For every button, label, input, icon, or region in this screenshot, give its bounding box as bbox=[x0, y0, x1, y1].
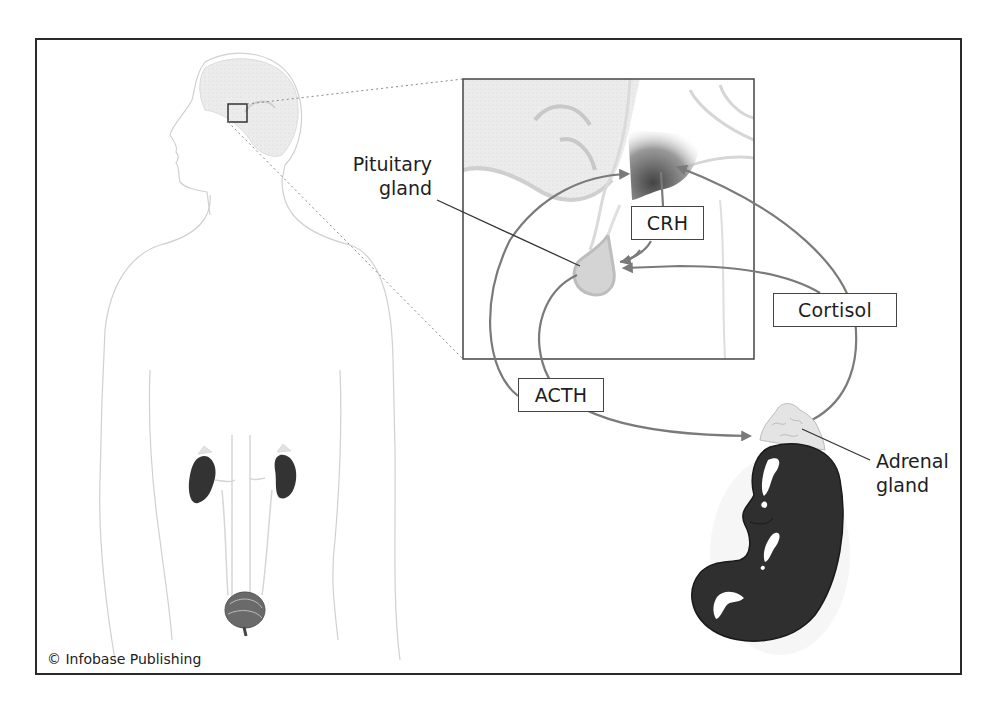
copyright-notice: © Infobase Publishing bbox=[47, 651, 201, 667]
crh-label-box: CRH bbox=[631, 206, 704, 240]
magnified-inset bbox=[463, 79, 754, 359]
adrenal-label-line1: Adrenal bbox=[876, 449, 949, 473]
pituitary-gland-label: Pituitary gland bbox=[340, 152, 432, 200]
pituitary-label-line1: Pituitary bbox=[340, 152, 432, 176]
adrenal-gland-label: Adrenal gland bbox=[876, 449, 949, 497]
urinary-system-small bbox=[189, 435, 296, 636]
kidney-with-adrenal-gland bbox=[692, 404, 850, 655]
brain-illustration bbox=[200, 59, 298, 157]
pituitary-label-line2: gland bbox=[340, 176, 432, 200]
acth-label: ACTH bbox=[535, 384, 588, 406]
acth-label-box: ACTH bbox=[518, 378, 604, 412]
cortisol-label-box: Cortisol bbox=[773, 293, 897, 327]
cortisol-label: Cortisol bbox=[798, 299, 872, 321]
adrenal-label-line2: gland bbox=[876, 473, 949, 497]
crh-label: CRH bbox=[647, 212, 688, 234]
diagram-illustration bbox=[0, 0, 994, 715]
